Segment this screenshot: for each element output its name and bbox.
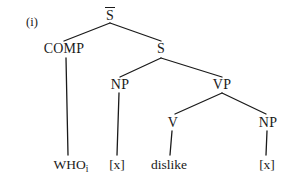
tree-node-comp: COMP [44,42,84,56]
tree-edge-vp-np2 [222,93,266,114]
tree-terminal-trace1: [x] [109,158,125,172]
tree-edge-sbar-s [110,23,161,41]
tree-node-vp: VP [213,78,231,92]
tree-edge-s-np1 [120,58,161,77]
terminal-subscript-who: i [86,164,89,174]
tree-edge-np2-trace2 [266,131,267,155]
tree-terminal-trace2: [x] [259,158,275,172]
tree-terminal-who: WHOi [54,158,89,172]
tree-node-np2: NP [259,116,277,130]
tree-branch-lines [0,0,291,184]
tree-node-v: V [168,116,178,130]
tree-node-sbar: S [106,8,114,23]
terminal-text-dislike: dislike [151,157,187,172]
tree-edge-vp-v [175,93,222,114]
tree-terminal-dislike: dislike [151,158,187,172]
tree-edge-v-dislike [170,131,172,155]
terminal-text-who: WHO [54,157,86,172]
syntax-tree-figure: (i) SCOMPSNPVPVNPWHOi[x]dislike[x] [0,0,291,184]
terminal-text-trace1: [x] [109,157,125,172]
tree-edge-s-vp [161,58,222,77]
tree-edge-np1-trace1 [117,93,119,155]
tree-edge-sbar-comp [64,23,110,41]
tree-node-s: S [157,42,165,56]
tree-edge-comp-who [66,58,68,155]
terminal-text-trace2: [x] [259,157,275,172]
node-label-overline-sbar: S [106,8,114,23]
tree-node-np1: NP [111,78,129,92]
